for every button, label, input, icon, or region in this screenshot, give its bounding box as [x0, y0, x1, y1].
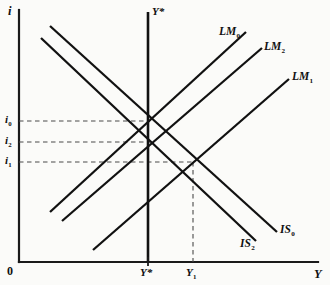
curve-label-lm2: LM2 [264, 41, 285, 53]
curve-label-lm1-text: LM [292, 70, 309, 82]
label-ystar-top: Y* [152, 6, 164, 17]
islm-figure: i Y 0 i0 i2 i1 Y* Y1 Y* LM0 LM2 LM1 IS0 … [0, 0, 330, 285]
curve-label-is2-sub: 2 [251, 244, 255, 252]
tick-label-i0-sub: 0 [8, 120, 11, 127]
tick-label-i2: i2 [5, 135, 11, 146]
curve-label-lm1-sub: 1 [310, 77, 314, 85]
curve-label-lm0-sub: 0 [237, 32, 241, 40]
curve-label-lm0: LM0 [219, 26, 240, 38]
tick-label-i2-sub: 2 [8, 141, 11, 148]
curve-label-lm2-sub: 2 [282, 47, 286, 55]
curve-lm2 [62, 48, 262, 221]
curve-label-is2-text: IS [240, 237, 251, 249]
curve-label-is0: IS0 [280, 224, 294, 236]
origin-label: 0 [7, 265, 13, 277]
tick-label-ystar: Y* [140, 267, 152, 278]
curve-label-is2: IS2 [240, 238, 254, 250]
tick-label-y1-sub: 1 [193, 273, 196, 280]
curve-label-lm2-text: LM [264, 40, 281, 52]
tick-label-i0: i0 [5, 114, 11, 125]
curve-label-lm1: LM1 [292, 71, 313, 83]
curve-label-lm0-text: LM [219, 25, 236, 37]
tick-label-y1-text: Y [186, 266, 193, 278]
y-axis-label: i [8, 5, 11, 18]
x-axis-label: Y [314, 268, 322, 281]
tick-label-i1: i1 [5, 155, 11, 166]
tick-label-i1-sub: 1 [8, 161, 11, 168]
curve-label-is0-sub: 0 [291, 230, 295, 238]
curve-label-is0-text: IS [280, 223, 291, 235]
tick-label-y1: Y1 [186, 267, 196, 278]
curve-lm1 [93, 79, 289, 250]
